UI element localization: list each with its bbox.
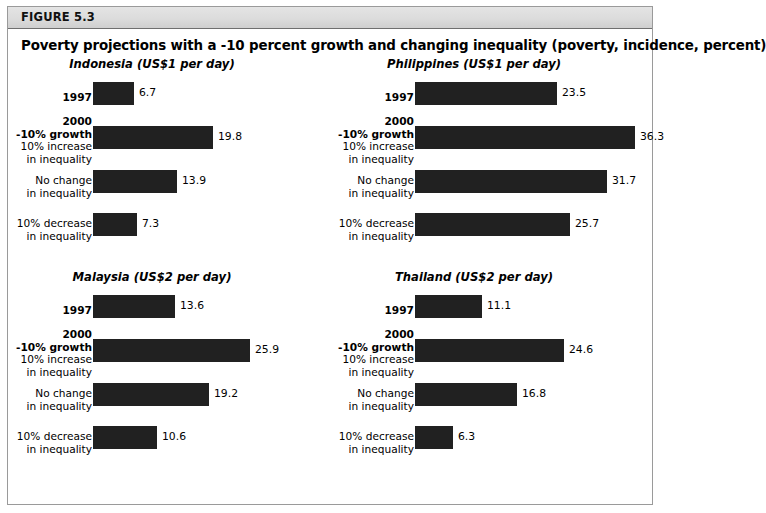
row-label-1997: 1997 (0, 304, 92, 317)
panel-title-philippines: Philippines (US$1 per day) (330, 57, 618, 71)
figure-title: Poverty projections with a -10 percent g… (8, 38, 652, 53)
row-label-line: in inequality (0, 153, 92, 166)
bar-row: No change in inequality 13.9 (8, 170, 330, 214)
row-label-line: 10% increase (314, 353, 414, 366)
row-label-line: in inequality (314, 153, 414, 166)
row-label-line: in inequality (314, 400, 414, 413)
bar-value-label: 25.9 (255, 343, 279, 356)
row-label-line: in inequality (0, 230, 92, 243)
bar-1997 (415, 82, 557, 105)
row-label-line: in inequality (0, 443, 92, 456)
row-label-line: in inequality (0, 366, 92, 379)
row-label-line: 10% increase (0, 353, 92, 366)
panel-thailand: Thailand (US$2 per day) 1997 11.1 2000 -… (330, 270, 652, 483)
figure-header-band: FIGURE 5.3 (8, 7, 652, 29)
bar-1997 (93, 82, 134, 105)
bar-value-label: 6.3 (458, 430, 475, 443)
row-label-line: in inequality (314, 366, 414, 379)
row-label-increase: 2000 -10% growth 10% increase in inequal… (314, 115, 414, 165)
bar-decrease (415, 426, 453, 449)
figure-frame: FIGURE 5.3 Poverty projections with a -1… (7, 6, 653, 505)
row-label-1997: 1997 (0, 91, 92, 104)
row-label-line: -10% growth (314, 341, 414, 354)
bar-decrease (93, 426, 157, 449)
bar-value-label: 36.3 (640, 130, 664, 143)
row-label-line: 10% decrease (0, 430, 92, 443)
row-label-line: in inequality (0, 187, 92, 200)
row-label-line: 2000 (0, 328, 92, 341)
bar-row: 2000 -10% growth 10% increase in inequal… (8, 339, 330, 383)
row-label-line: 10% decrease (314, 217, 414, 230)
bar-increase (415, 339, 564, 362)
row-label-line: -10% growth (0, 128, 92, 141)
row-label-line: 2000 (0, 115, 92, 128)
row-label-line: 1997 (0, 304, 92, 317)
row-label-line: 10% decrease (0, 217, 92, 230)
row-label-line: 2000 (314, 328, 414, 341)
bar-increase (93, 339, 250, 362)
bar-value-label: 10.6 (162, 430, 186, 443)
bar-row: 10% decrease in inequality 7.3 (8, 213, 330, 257)
row-label-line: 10% decrease (314, 430, 414, 443)
bar-value-label: 19.2 (214, 387, 238, 400)
row-label-nochange: No change in inequality (0, 174, 92, 199)
row-label-line: 1997 (314, 91, 414, 104)
bar-value-label: 19.8 (218, 130, 242, 143)
row-label-increase: 2000 -10% growth 10% increase in inequal… (314, 328, 414, 378)
row-label-increase: 2000 -10% growth 10% increase in inequal… (0, 115, 92, 165)
row-label-line: 1997 (0, 91, 92, 104)
row-label-line: 10% increase (314, 140, 414, 153)
bar-decrease (93, 213, 137, 236)
row-label-line: 1997 (314, 304, 414, 317)
bar-row: 2000 -10% growth 10% increase in inequal… (330, 339, 652, 383)
panel-title-indonesia: Indonesia (US$1 per day) (8, 57, 296, 71)
row-label-line: in inequality (314, 230, 414, 243)
panel-indonesia: Indonesia (US$1 per day) 1997 6.7 2000 -… (8, 57, 330, 270)
bar-row: No change in inequality 19.2 (8, 383, 330, 427)
row-label-line: No change (314, 174, 414, 187)
bar-1997 (415, 295, 482, 318)
row-label-nochange: No change in inequality (314, 174, 414, 199)
panel-malaysia: Malaysia (US$2 per day) 1997 13.6 2000 -… (8, 270, 330, 483)
bar-value-label: 11.1 (487, 299, 511, 312)
row-label-line: in inequality (314, 187, 414, 200)
bar-nochange (93, 170, 177, 193)
bar-value-label: 23.5 (562, 86, 586, 99)
bar-value-label: 31.7 (612, 174, 636, 187)
bar-row: 10% decrease in inequality 6.3 (330, 426, 652, 470)
bar-row: 10% decrease in inequality 25.7 (330, 213, 652, 257)
row-label-line: -10% growth (0, 341, 92, 354)
bar-nochange (415, 383, 517, 406)
bar-increase (415, 126, 635, 149)
row-label-decrease: 10% decrease in inequality (0, 430, 92, 455)
row-label-nochange: No change in inequality (314, 387, 414, 412)
row-label-line: 10% increase (0, 140, 92, 153)
bar-value-label: 25.7 (575, 217, 599, 230)
bar-row: No change in inequality 31.7 (330, 170, 652, 214)
row-label-nochange: No change in inequality (0, 387, 92, 412)
bar-value-label: 7.3 (142, 217, 159, 230)
bar-row: 2000 -10% growth 10% increase in inequal… (330, 126, 652, 170)
row-label-line: -10% growth (314, 128, 414, 141)
bar-value-label: 6.7 (139, 86, 156, 99)
bar-decrease (415, 213, 570, 236)
row-label-increase: 2000 -10% growth 10% increase in inequal… (0, 328, 92, 378)
panel-title-malaysia: Malaysia (US$2 per day) (8, 270, 296, 284)
bar-row: No change in inequality 16.8 (330, 383, 652, 427)
bar-value-label: 24.6 (569, 343, 593, 356)
bar-nochange (93, 383, 209, 406)
panel-philippines: Philippines (US$1 per day) 1997 23.5 200… (330, 57, 652, 270)
bar-value-label: 16.8 (522, 387, 546, 400)
panel-title-thailand: Thailand (US$2 per day) (330, 270, 618, 284)
bar-value-label: 13.6 (180, 299, 204, 312)
bar-row: 2000 -10% growth 10% increase in inequal… (8, 126, 330, 170)
bar-nochange (415, 170, 607, 193)
row-label-decrease: 10% decrease in inequality (314, 217, 414, 242)
row-label-decrease: 10% decrease in inequality (314, 430, 414, 455)
row-label-line: No change (0, 387, 92, 400)
bar-value-label: 13.9 (182, 174, 206, 187)
bar-increase (93, 126, 213, 149)
row-label-line: in inequality (314, 443, 414, 456)
row-label-line: in inequality (0, 400, 92, 413)
panel-grid: Indonesia (US$1 per day) 1997 6.7 2000 -… (8, 57, 652, 503)
